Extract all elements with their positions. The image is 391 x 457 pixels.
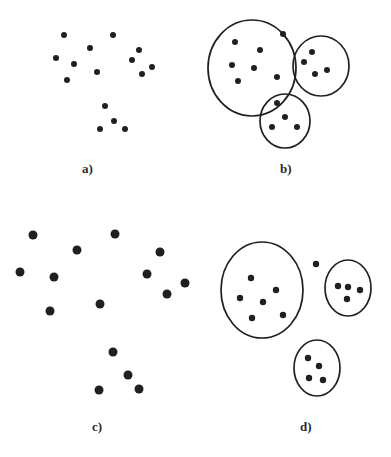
data-point bbox=[16, 268, 25, 277]
data-point bbox=[235, 78, 241, 84]
data-point bbox=[139, 71, 145, 77]
data-point bbox=[229, 62, 235, 68]
panel-d bbox=[221, 242, 371, 396]
data-point bbox=[294, 124, 300, 130]
data-point bbox=[274, 100, 280, 106]
data-point bbox=[357, 287, 363, 293]
data-point bbox=[94, 69, 100, 75]
data-point bbox=[237, 295, 243, 301]
data-point bbox=[301, 59, 307, 65]
data-point bbox=[143, 270, 152, 279]
panel-caption-a: a) bbox=[82, 161, 93, 177]
panel-b bbox=[208, 20, 349, 148]
panel-caption-c: c) bbox=[92, 419, 102, 435]
data-point bbox=[73, 246, 82, 255]
data-point bbox=[87, 45, 93, 51]
data-point bbox=[335, 283, 341, 289]
data-point bbox=[273, 287, 279, 293]
data-point bbox=[156, 248, 165, 257]
panel-caption-d: d) bbox=[300, 419, 312, 435]
data-point bbox=[29, 231, 38, 240]
panel-caption-b: b) bbox=[280, 161, 292, 177]
data-point bbox=[136, 47, 142, 53]
data-point bbox=[46, 307, 55, 316]
data-point bbox=[50, 273, 59, 282]
data-point bbox=[61, 32, 67, 38]
data-point bbox=[96, 300, 105, 309]
data-point bbox=[97, 126, 103, 132]
data-point bbox=[163, 290, 172, 299]
data-point bbox=[135, 385, 144, 394]
data-point bbox=[181, 279, 190, 288]
data-point bbox=[110, 32, 116, 38]
data-point bbox=[111, 118, 117, 124]
data-point bbox=[320, 377, 326, 383]
data-point bbox=[344, 296, 350, 302]
data-point bbox=[124, 371, 133, 380]
data-point bbox=[305, 355, 311, 361]
data-point bbox=[149, 64, 155, 70]
data-point bbox=[312, 71, 318, 77]
data-point bbox=[260, 299, 266, 305]
panel-a bbox=[53, 32, 155, 132]
clustering-figure: a) b) c) d) bbox=[0, 0, 391, 457]
data-point bbox=[232, 39, 238, 45]
data-point bbox=[95, 386, 104, 395]
data-point bbox=[71, 61, 77, 67]
data-point bbox=[269, 124, 275, 130]
data-point bbox=[280, 312, 286, 318]
data-point bbox=[274, 74, 280, 80]
data-point bbox=[280, 31, 286, 37]
panel-c bbox=[16, 230, 190, 395]
data-point bbox=[249, 315, 255, 321]
data-point bbox=[345, 284, 351, 290]
figure-canvas bbox=[0, 0, 391, 457]
data-point bbox=[248, 275, 254, 281]
data-point bbox=[309, 49, 315, 55]
cluster-ellipse bbox=[260, 94, 310, 148]
data-point bbox=[102, 103, 108, 109]
data-point bbox=[316, 363, 322, 369]
data-point bbox=[53, 55, 59, 61]
data-point bbox=[64, 77, 70, 83]
data-point bbox=[111, 230, 120, 239]
data-point bbox=[251, 65, 257, 71]
data-point bbox=[109, 348, 118, 357]
data-point bbox=[282, 114, 288, 120]
data-point bbox=[122, 126, 128, 132]
data-point bbox=[306, 375, 312, 381]
data-point bbox=[129, 57, 135, 63]
data-point bbox=[324, 67, 330, 73]
data-point bbox=[313, 261, 319, 267]
cluster-ellipse bbox=[221, 242, 303, 338]
data-point bbox=[257, 47, 263, 53]
cluster-ellipse bbox=[293, 36, 349, 96]
